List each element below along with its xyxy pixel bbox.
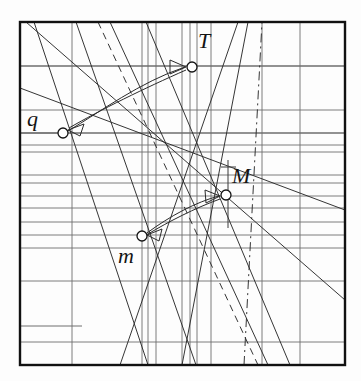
point-label-q: q xyxy=(27,108,38,130)
point-label-M: M xyxy=(232,165,250,187)
node-marker-q[interactable] xyxy=(58,128,68,138)
figure-container: T q M m xyxy=(0,0,361,381)
point-label-m: m xyxy=(118,245,134,267)
node-marker-T[interactable] xyxy=(187,62,197,72)
node-marker-M[interactable] xyxy=(221,190,231,200)
diagram-canvas xyxy=(0,0,361,381)
point-label-T: T xyxy=(198,30,210,52)
node-marker-m[interactable] xyxy=(137,231,147,241)
